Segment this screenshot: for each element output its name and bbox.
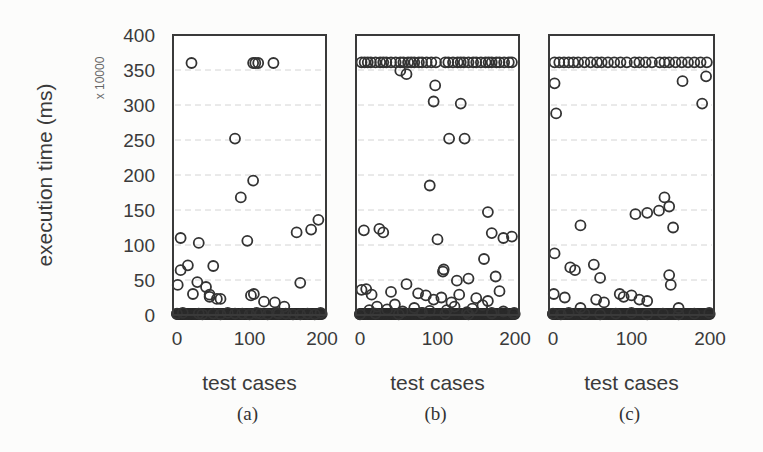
x-tick-label: 100 bbox=[422, 328, 454, 349]
panel-caption: (a) bbox=[237, 403, 258, 425]
figure: execution time (ms) x 10000 050100150200… bbox=[0, 0, 763, 452]
y-tick-label: 50 bbox=[134, 270, 155, 291]
x-tick-label: 0 bbox=[548, 328, 559, 349]
panel-b: 0100200test cases(b) bbox=[355, 35, 531, 425]
x-tick-label: 200 bbox=[306, 328, 338, 349]
y-axis-ticks: 050100150200250300350400 bbox=[123, 25, 155, 326]
x-axis-title: test cases bbox=[390, 371, 485, 394]
y-tick-label: 350 bbox=[123, 60, 155, 81]
x-tick-label: 100 bbox=[234, 328, 266, 349]
panels: 0100200test cases(a)0100200test cases(b)… bbox=[172, 35, 726, 425]
x-tick-label: 0 bbox=[355, 328, 366, 349]
x-tick-label: 200 bbox=[499, 328, 531, 349]
x-axis-title: test cases bbox=[202, 371, 297, 394]
y-tick-label: 250 bbox=[123, 130, 155, 151]
panel-c: 0100200test cases(c) bbox=[548, 35, 726, 425]
y-tick-label: 150 bbox=[123, 200, 155, 221]
x-tick-label: 100 bbox=[616, 328, 648, 349]
y-tick-label: 400 bbox=[123, 25, 155, 46]
panel-a: 0100200test cases(a) bbox=[172, 35, 338, 425]
x-tick-label: 0 bbox=[172, 328, 183, 349]
panel-caption: (b) bbox=[424, 403, 446, 425]
y-multiplier-label: x 10000 bbox=[93, 56, 107, 99]
y-tick-label: 300 bbox=[123, 95, 155, 116]
y-axis-title: execution time (ms) bbox=[33, 83, 56, 266]
panel-caption: (c) bbox=[619, 403, 640, 425]
y-tick-label: 200 bbox=[123, 165, 155, 186]
x-tick-label: 200 bbox=[694, 328, 726, 349]
y-tick-label: 0 bbox=[144, 305, 155, 326]
y-tick-label: 100 bbox=[123, 235, 155, 256]
x-axis-title: test cases bbox=[584, 371, 679, 394]
